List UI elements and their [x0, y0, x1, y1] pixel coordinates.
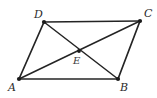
segment-db [44, 22, 118, 79]
vertex-dot-e [77, 49, 81, 53]
segment-dc [44, 21, 140, 22]
geometry-figure: D C A B E [0, 0, 157, 98]
point-label-b: B [120, 82, 128, 93]
point-label-d: D [34, 9, 43, 20]
vertex-dot-a [17, 77, 21, 81]
point-label-a: A [8, 82, 16, 93]
segment-ad [19, 22, 44, 79]
vertex-dot-c [138, 19, 142, 23]
parallelogram-svg [0, 0, 157, 98]
point-label-c: C [144, 8, 152, 19]
point-label-e: E [73, 55, 80, 66]
